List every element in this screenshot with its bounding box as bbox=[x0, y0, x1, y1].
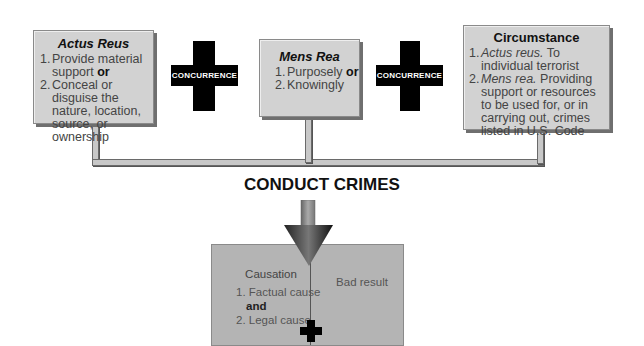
list-item: 2.Mens rea. Providing support or resourc… bbox=[469, 73, 609, 138]
mens-rea-box: Mens Rea 1.Purposely or 2.Knowingly bbox=[259, 39, 360, 117]
concurrence-cross-left: CONCURRENCE bbox=[171, 41, 238, 111]
list-item: and bbox=[236, 299, 320, 313]
conduct-crimes-heading: CONDUCT CRIMES bbox=[0, 175, 644, 195]
concurrence-label: CONCURRENCE bbox=[376, 65, 443, 86]
causation-section: Causation 1. Factual cause and 2. Legal … bbox=[236, 267, 320, 327]
circumstance-title: Circumstance bbox=[464, 26, 609, 44]
list-item: 1.Provide material support or bbox=[40, 53, 153, 79]
actus-reus-title: Actus Reus bbox=[34, 31, 153, 50]
connector-pipe-middle bbox=[305, 116, 312, 163]
mens-rea-title: Mens Rea bbox=[260, 40, 359, 63]
connector-pipe-horizontal bbox=[92, 159, 544, 166]
list-item: 1. Factual cause bbox=[236, 285, 320, 299]
concurrence-cross-right: CONCURRENCE bbox=[376, 41, 443, 111]
bad-result-label: Bad result bbox=[332, 276, 392, 289]
actus-reus-box: Actus Reus 1.Provide material support or… bbox=[33, 30, 154, 124]
circumstance-box: Circumstance 1.Actus reus. To individual… bbox=[463, 25, 610, 130]
list-item: 1.Actus reus. To individual terrorist bbox=[469, 47, 609, 73]
concurrence-label: CONCURRENCE bbox=[171, 65, 238, 86]
down-arrow-icon bbox=[283, 200, 335, 270]
list-item: 2.Knowingly bbox=[275, 79, 359, 92]
list-item: 2.Conceal or disguise the nature, locati… bbox=[40, 79, 153, 144]
